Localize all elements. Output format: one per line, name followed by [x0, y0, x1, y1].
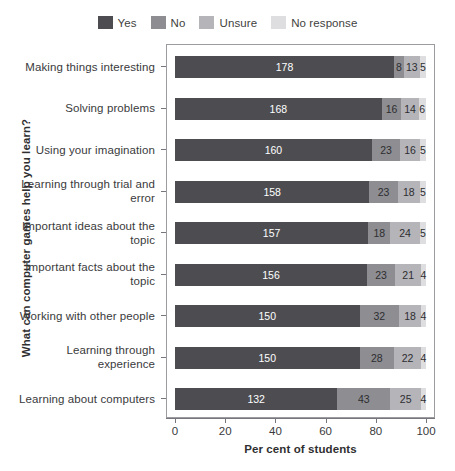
bar-segment[interactable]: 4: [421, 388, 426, 410]
bar-segment[interactable]: 4: [421, 264, 426, 286]
bar-segment[interactable]: 156: [175, 264, 367, 286]
category-label: Important facts about the topic: [6, 254, 166, 296]
bar-row: Learning through experience15028224: [166, 337, 435, 379]
bar-segment[interactable]: 178: [175, 56, 394, 78]
bar-segment[interactable]: 157: [175, 222, 368, 244]
bar-segment-value: 132: [247, 393, 265, 405]
bar-segment[interactable]: 24: [390, 222, 420, 244]
legend-item[interactable]: No: [151, 16, 186, 29]
bar-segment[interactable]: 8: [394, 56, 404, 78]
bar-segment-value: 4: [421, 269, 427, 281]
category-label: Important ideas about the topic: [6, 212, 166, 254]
bar-segment[interactable]: 22: [394, 347, 421, 369]
bar-segment[interactable]: 28: [360, 347, 394, 369]
bar-segment-value: 25: [400, 393, 412, 405]
bar-segment[interactable]: 168: [175, 98, 382, 120]
bar-segment[interactable]: 150: [175, 347, 360, 369]
bar-segment-value: 5: [420, 144, 426, 156]
x-axis: 020406080100: [166, 418, 435, 419]
x-axis-title: Per cent of students: [166, 443, 435, 455]
bar-segment-value: 13: [406, 61, 418, 73]
x-axis-tick: [326, 418, 327, 423]
bar-segment[interactable]: 132: [175, 388, 337, 410]
x-axis-tick-label: 100: [406, 425, 446, 437]
y-axis-tick: [161, 274, 166, 275]
bar-segment-value: 5: [420, 186, 426, 198]
chart-legend: YesNoUnsureNo response: [0, 16, 455, 29]
x-axis-tick: [225, 418, 226, 423]
bar-segment[interactable]: 32: [360, 305, 399, 327]
legend-item[interactable]: Yes: [98, 16, 137, 29]
stacked-bar[interactable]: 13243254: [175, 388, 426, 410]
bar-segment-value: 4: [421, 393, 427, 405]
bar-segment[interactable]: 18: [368, 222, 390, 244]
bar-segment[interactable]: 43: [337, 388, 390, 410]
x-axis-tick-label: 0: [155, 425, 195, 437]
stacked-bar[interactable]: 15028224: [175, 347, 426, 369]
bar-row: Working with other people15032184: [166, 295, 435, 337]
bar-segment-value: 43: [358, 393, 370, 405]
category-label: Solving problems: [6, 88, 166, 130]
x-axis-tick: [275, 418, 276, 423]
bar-row: Important facts about the topic15623214: [166, 254, 435, 296]
bar-segment[interactable]: 5: [420, 56, 426, 78]
x-axis-tick: [175, 418, 176, 423]
y-axis-tick: [161, 315, 166, 316]
bar-segment[interactable]: 150: [175, 305, 360, 327]
bar-segment-value: 24: [399, 227, 411, 239]
stacked-bar[interactable]: 15623214: [175, 264, 426, 286]
bar-segment-value: 21: [402, 269, 414, 281]
bar-segment-value: 14: [404, 103, 416, 115]
bar-segment[interactable]: 14: [401, 98, 418, 120]
bar-segment[interactable]: 18: [398, 181, 420, 203]
stacked-bar[interactable]: 15032184: [175, 305, 426, 327]
bar-segment[interactable]: 160: [175, 139, 372, 161]
bar-row: Learning through trial and error15823185: [166, 171, 435, 213]
bar-segment[interactable]: 5: [420, 139, 426, 161]
bar-segment-value: 160: [265, 144, 283, 156]
bar-row: Solving problems16816146: [166, 88, 435, 130]
bar-segment-value: 23: [375, 269, 387, 281]
category-label: Learning through experience: [6, 337, 166, 379]
bar-segment[interactable]: 23: [369, 181, 397, 203]
legend-swatch-icon: [271, 16, 286, 29]
bar-segment-value: 157: [263, 227, 281, 239]
bar-segment[interactable]: 25: [390, 388, 421, 410]
bar-segment-value: 6: [419, 103, 425, 115]
legend-item-label: No: [171, 17, 186, 29]
x-axis-tick-label: 40: [255, 425, 295, 437]
bar-segment-value: 22: [402, 352, 414, 364]
bar-segment[interactable]: 18: [399, 305, 421, 327]
bar-segment-value: 150: [259, 310, 277, 322]
y-axis-tick: [161, 398, 166, 399]
bar-segment-value: 16: [386, 103, 398, 115]
stacked-bar[interactable]: 16023165: [175, 139, 426, 161]
stacked-bar[interactable]: 15823185: [175, 181, 426, 203]
y-axis-tick: [161, 232, 166, 233]
legend-swatch-icon: [98, 16, 113, 29]
bar-segment-value: 156: [262, 269, 280, 281]
bar-segment[interactable]: 6: [419, 98, 426, 120]
stacked-bar[interactable]: 15718245: [175, 222, 426, 244]
bar-segment-value: 5: [420, 227, 426, 239]
bar-row: Making things interesting1788135: [166, 46, 435, 88]
stacked-bar[interactable]: 1788135: [175, 56, 426, 78]
legend-item[interactable]: Unsure: [199, 16, 257, 29]
bar-segment[interactable]: 5: [420, 181, 426, 203]
bar-segment[interactable]: 4: [421, 305, 426, 327]
legend-item[interactable]: No response: [271, 16, 357, 29]
bar-segment[interactable]: 21: [395, 264, 421, 286]
bar-segment[interactable]: 23: [367, 264, 395, 286]
bar-segment-value: 23: [378, 186, 390, 198]
y-axis-tick: [161, 357, 166, 358]
bar-segment[interactable]: 13: [404, 56, 420, 78]
bar-segment[interactable]: 5: [420, 222, 426, 244]
category-label: Learning about computers: [6, 378, 166, 420]
bar-segment[interactable]: 16: [400, 139, 420, 161]
bar-segment[interactable]: 16: [382, 98, 402, 120]
bar-segment[interactable]: 23: [372, 139, 400, 161]
stacked-bar[interactable]: 16816146: [175, 98, 426, 120]
bar-segment[interactable]: 158: [175, 181, 369, 203]
bar-segment[interactable]: 4: [421, 347, 426, 369]
x-axis-tick-label: 80: [356, 425, 396, 437]
